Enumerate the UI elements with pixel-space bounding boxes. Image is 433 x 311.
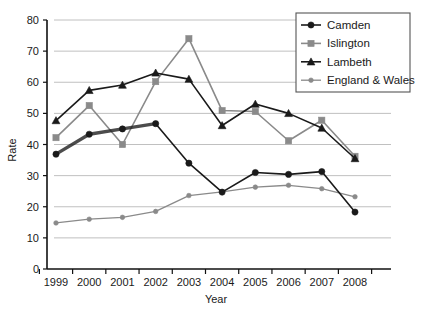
data-point: [285, 138, 291, 144]
y-tick-label: 60: [27, 76, 39, 88]
data-point: [253, 185, 258, 190]
data-point: [86, 102, 92, 108]
y-tick-label: 80: [27, 14, 39, 26]
data-point: [187, 193, 192, 198]
legend-label: Camden: [327, 19, 370, 31]
data-point: [87, 217, 92, 222]
data-point: [153, 209, 158, 214]
x-tick-label: 2004: [210, 276, 234, 288]
data-point: [252, 169, 258, 175]
data-point: [186, 36, 192, 42]
x-tick-label: 1999: [44, 276, 68, 288]
x-tick-label: 2001: [110, 276, 134, 288]
data-point: [86, 131, 92, 137]
x-tick-label: 2008: [343, 276, 367, 288]
data-point: [120, 215, 125, 220]
data-point: [353, 194, 358, 199]
y-tick-label: 70: [27, 45, 39, 57]
legend-label: Lambeth: [327, 56, 372, 68]
y-tick-label: 10: [27, 232, 39, 244]
x-tick-label: 2002: [143, 276, 167, 288]
x-tick-label: 2000: [77, 276, 101, 288]
data-point: [119, 126, 125, 132]
y-tick-label: 20: [27, 201, 39, 213]
legend-marker-circle-icon: [308, 22, 314, 28]
y-tick-label: 30: [27, 170, 39, 182]
y-tick-label: 0: [33, 263, 39, 275]
data-point: [153, 121, 159, 127]
data-point: [252, 108, 258, 114]
data-point: [153, 79, 159, 85]
legend: CamdenIslingtonLambethEngland & Wales: [296, 13, 415, 92]
legend-marker-square-icon: [308, 40, 314, 46]
y-axis-title: Rate: [6, 138, 18, 161]
data-point: [286, 183, 291, 188]
x-tick-label: 2007: [310, 276, 334, 288]
data-point: [119, 141, 125, 147]
data-point: [53, 135, 59, 141]
y-tick-label: 40: [27, 139, 39, 151]
legend-label: England & Wales: [327, 74, 415, 86]
data-point: [219, 107, 225, 113]
data-point: [319, 168, 325, 174]
x-tick-label: 2006: [276, 276, 300, 288]
y-tick-label: 50: [27, 107, 39, 119]
data-point: [219, 189, 225, 195]
x-axis-title: Year: [205, 293, 228, 305]
x-tick-label: 2005: [243, 276, 267, 288]
data-point: [186, 160, 192, 166]
data-point: [53, 151, 59, 157]
x-tick-label: 2003: [177, 276, 201, 288]
y-tick-labels: 01020304050607080: [27, 14, 39, 275]
data-point: [285, 171, 291, 177]
legend-label: Islington: [327, 37, 370, 49]
data-point: [319, 186, 324, 191]
line-chart: 01020304050607080 1999200020012002200320…: [0, 0, 433, 311]
legend-marker-small-circle-icon: [309, 78, 314, 83]
data-point: [319, 117, 325, 123]
data-point: [54, 221, 59, 226]
data-point: [352, 209, 358, 215]
chart-canvas: 01020304050607080 1999200020012002200320…: [0, 0, 433, 311]
